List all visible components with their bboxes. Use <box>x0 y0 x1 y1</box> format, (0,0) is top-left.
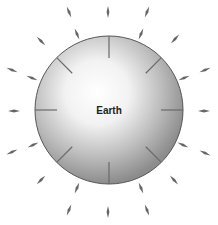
gravity-arrow-icon <box>37 176 45 185</box>
gravity-arrow-icon <box>6 150 17 155</box>
gravity-arrow-icon <box>6 68 17 73</box>
gravity-arrow-icon <box>139 182 144 193</box>
gravity-arrow-icon <box>145 204 149 215</box>
earth-label: Earth <box>96 105 122 116</box>
gravity-arrow-icon <box>139 28 144 39</box>
gravity-arrow-icon <box>199 68 210 73</box>
gravity-arrow-icon <box>75 28 80 39</box>
gravity-arrow-icon <box>200 151 211 156</box>
gravity-arrow-icon <box>75 182 80 193</box>
gravity-arrow-icon <box>107 206 110 218</box>
gravity-arrow-icon <box>198 110 210 113</box>
gravity-arrow-icon <box>8 110 20 113</box>
gravity-arrow-icon <box>67 6 72 17</box>
gravity-arrow-icon <box>67 204 71 215</box>
earth-gravity-diagram: Earth <box>0 0 218 225</box>
gravity-arrow-icon <box>171 35 179 44</box>
gravity-arrow-icon <box>37 37 45 46</box>
gravity-arrow-icon <box>178 142 189 147</box>
gravity-arrow-icon <box>26 76 37 81</box>
gravity-arrow-icon <box>107 6 110 18</box>
gravity-arrow-icon <box>28 142 39 147</box>
gravity-arrow-icon <box>145 6 149 17</box>
gravity-arrow-icon <box>178 76 189 81</box>
gravity-arrow-icon <box>170 176 178 185</box>
